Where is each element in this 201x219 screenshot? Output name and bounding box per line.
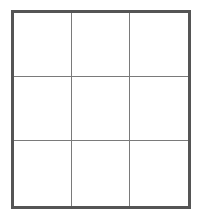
grid-cell-r1-c2 [72, 13, 130, 77]
grid-cell-r2-c3 [130, 77, 188, 141]
grid-cell-r1-c3 [130, 13, 188, 77]
grid-cell-r1-c1 [14, 13, 72, 77]
grid-cell-r3-c1 [14, 141, 72, 206]
grid-cell-r2-c1 [14, 77, 72, 141]
grid-3x3 [11, 10, 191, 209]
grid-cell-r2-c2 [72, 77, 130, 141]
grid-cell-r3-c2 [72, 141, 130, 206]
grid-cell-r3-c3 [130, 141, 188, 206]
